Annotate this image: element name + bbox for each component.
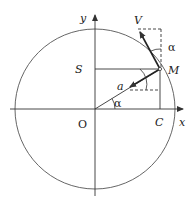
acceleration-label: a <box>117 80 124 93</box>
point-s-label: S <box>75 63 83 76</box>
point-m-label: M <box>167 64 180 77</box>
point-c-label: C <box>155 116 164 129</box>
acceleration-vector <box>130 69 160 87</box>
angle-arc-velocity <box>151 49 161 51</box>
circular-motion-diagram: y x O M S C V a α α <box>0 0 194 204</box>
angle-origin-label: α <box>114 97 122 110</box>
angle-velocity-label: α <box>168 41 176 54</box>
origin-label: O <box>78 118 87 131</box>
point-m-marker <box>158 67 161 70</box>
velocity-label: V <box>134 14 143 27</box>
y-axis-label: y <box>79 12 87 25</box>
x-axis-label: x <box>179 116 186 129</box>
velocity-vector <box>140 32 160 69</box>
